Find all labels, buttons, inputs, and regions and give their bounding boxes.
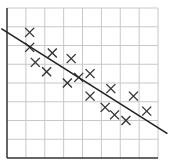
x-marker bbox=[110, 110, 119, 119]
x-marker bbox=[48, 49, 57, 58]
x-marker bbox=[67, 54, 76, 63]
x-marker bbox=[129, 92, 138, 101]
x-marker bbox=[86, 69, 95, 78]
x-marker bbox=[142, 107, 151, 116]
x-marker bbox=[106, 84, 115, 93]
x-marker bbox=[25, 28, 34, 37]
grid-lines bbox=[7, 8, 158, 158]
data-points bbox=[25, 28, 151, 125]
x-marker bbox=[31, 58, 40, 67]
x-marker bbox=[42, 67, 51, 76]
x-marker bbox=[86, 92, 95, 101]
x-marker bbox=[101, 103, 110, 112]
scatter-chart bbox=[0, 0, 171, 163]
